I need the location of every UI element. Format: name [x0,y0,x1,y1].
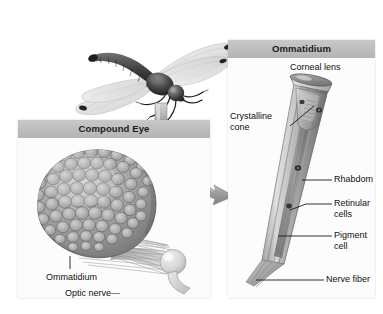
optic-nerve [160,250,190,295]
label-crystalline-cone-line1: Crystalline [230,111,272,121]
panel-compound-eye-header: Compound Eye [18,120,210,138]
label-crystalline-cone-line2: cone [230,122,250,132]
label-nerve-fiber: Nerve fiber [326,274,370,285]
panel-compound-eye-body: Ommatidium Optic nerve— [18,138,210,298]
panel-compound-eye: Compound Eye [18,120,210,298]
label-ommatidium: Ommatidium [46,272,97,283]
label-retinular-cells-line2: cells [334,209,352,219]
panel-ommatidium-body: Corneal lens Crystalline cone Rhabdom Re… [228,58,375,298]
label-optic-nerve: Optic nerve— [65,288,120,298]
compound-eye-figure: Compound Eye [0,0,383,314]
panel-compound-eye-title: Compound Eye [79,124,150,134]
panel-ommatidium-title: Ommatidium [272,44,331,54]
label-pigment-cell-line2: cell [334,241,348,251]
label-pigment-cell-line1: Pigment [334,230,367,240]
label-pigment-cell: Pigment cell [334,230,375,251]
label-retinular-cells: Retinular cells [334,198,375,219]
label-rhabdom: Rhabdom [334,174,373,185]
label-crystalline-cone: Crystalline cone [230,111,286,132]
label-corneal-lens: Corneal lens [290,62,341,73]
label-retinular-cells-line1: Retinular [334,198,370,208]
label-optic-nerve-text: Optic nerve [65,288,111,298]
panel-ommatidium-header: Ommatidium [228,40,375,58]
panel-ommatidium: Ommatidium [228,40,375,298]
ommatidium-body [262,71,333,264]
nerve-fiber-bundle [246,260,284,287]
label-optic-nerve-leader: — [111,288,120,298]
